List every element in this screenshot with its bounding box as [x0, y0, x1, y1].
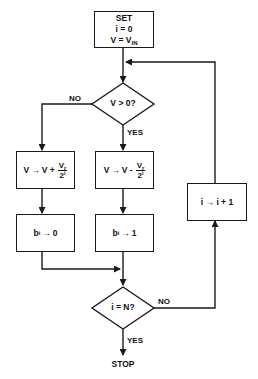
- edge-bit0-merge: [42, 251, 120, 269]
- fraction-vr-over-2i: Vr 2i: [58, 161, 68, 180]
- bit-zero-expression: bi → 0: [33, 228, 57, 239]
- start-title: SET: [116, 13, 133, 24]
- edge-label-done-yes: YES: [127, 336, 143, 345]
- arrow-right-icon: →: [121, 228, 130, 239]
- start-init-v: V = VIN: [110, 35, 137, 46]
- stop-terminal: STOP: [103, 359, 143, 369]
- start-init-i: i = 0: [116, 24, 133, 35]
- update-plus-expression: V → V + Vr 2i: [24, 161, 68, 180]
- edge-sign-no: [42, 104, 92, 150]
- increment-box: i → i + 1: [187, 183, 247, 221]
- arrow-right-icon: →: [31, 165, 40, 176]
- decision-sign-label: V > 0?: [98, 98, 148, 108]
- edge-label-done-no: NO: [158, 297, 170, 306]
- bit-one-expression: bi → 1: [112, 228, 136, 239]
- update-plus-box: V → V + Vr 2i: [16, 151, 75, 189]
- start-box: SET i = 0 V = VIN: [94, 11, 154, 48]
- arrow-right-icon: →: [111, 165, 120, 176]
- edge-label-sign-no: NO: [69, 94, 81, 103]
- update-minus-expression: V → V - Vr 2i: [104, 161, 146, 180]
- increment-label: i → i + 1: [201, 197, 233, 208]
- edge-label-sign-yes: YES: [127, 128, 143, 137]
- bit-one-box: bi → 1: [95, 214, 154, 252]
- fraction-vr-over-2i: Vr 2i: [136, 161, 146, 180]
- arrow-right-icon: →: [42, 228, 51, 239]
- decision-done-label: i = N?: [98, 302, 148, 312]
- update-minus-box: V → V - Vr 2i: [95, 151, 154, 189]
- edge-done-no: [154, 221, 215, 308]
- bit-zero-box: bi → 0: [16, 214, 75, 252]
